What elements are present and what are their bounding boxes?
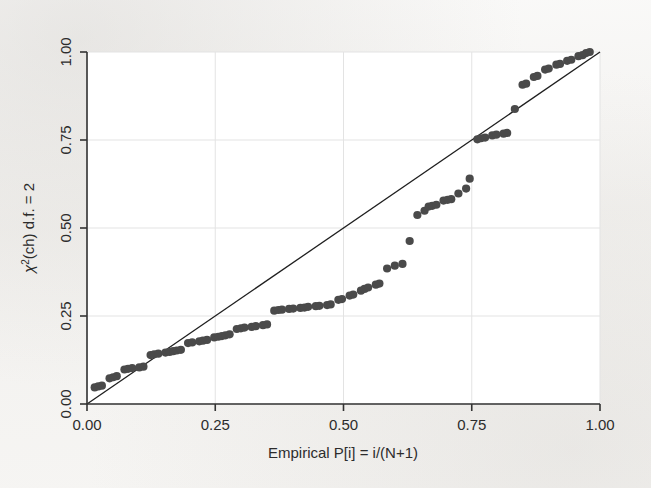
data-point bbox=[586, 48, 594, 56]
y-tick-label: 0.25 bbox=[57, 301, 74, 330]
data-point bbox=[240, 324, 248, 332]
data-point bbox=[338, 295, 346, 303]
data-point bbox=[327, 300, 335, 308]
data-point bbox=[503, 129, 511, 137]
data-point bbox=[289, 305, 297, 313]
data-point bbox=[391, 262, 399, 270]
qq-plot-chart: 0.000.250.500.751.00 0.000.250.500.751.0… bbox=[0, 0, 651, 488]
data-point bbox=[304, 303, 312, 311]
data-point bbox=[315, 302, 323, 310]
data-point bbox=[139, 363, 147, 371]
y-tick-label: 0.50 bbox=[57, 213, 74, 242]
data-point bbox=[375, 280, 383, 288]
data-point bbox=[466, 175, 474, 183]
data-point bbox=[556, 60, 564, 68]
y-axis-title-group: χ2(ch) d.f. = 2 bbox=[20, 183, 37, 275]
data-point bbox=[462, 184, 470, 192]
y-tick-label: 0.00 bbox=[57, 389, 74, 418]
data-point bbox=[188, 338, 196, 346]
data-point bbox=[383, 264, 391, 272]
data-point bbox=[98, 382, 106, 390]
data-point bbox=[413, 211, 421, 219]
data-point bbox=[364, 283, 372, 291]
data-point bbox=[398, 260, 406, 268]
x-tick-label: 0.00 bbox=[72, 416, 101, 433]
data-point bbox=[567, 56, 575, 64]
y-axis-title: χ2(ch) d.f. = 2 bbox=[20, 183, 37, 275]
y-axis-title-rest: (ch) d.f. = 2 bbox=[20, 183, 37, 259]
x-axis-title: Empirical P[i] = i/(N+1) bbox=[268, 444, 418, 461]
data-point bbox=[263, 320, 271, 328]
data-point bbox=[203, 336, 211, 344]
data-point bbox=[226, 330, 234, 338]
data-point bbox=[349, 290, 357, 298]
y-tick-label: 0.75 bbox=[57, 125, 74, 154]
data-point bbox=[522, 80, 530, 88]
data-point bbox=[481, 133, 489, 141]
y-axis-ticks: 0.000.250.500.751.00 bbox=[57, 37, 87, 418]
data-point bbox=[432, 201, 440, 209]
x-tick-label: 0.25 bbox=[201, 416, 230, 433]
data-point bbox=[252, 322, 260, 330]
data-point bbox=[447, 195, 455, 203]
data-point bbox=[545, 64, 553, 72]
x-tick-label: 0.75 bbox=[457, 416, 486, 433]
x-axis-ticks: 0.000.250.500.751.00 bbox=[72, 404, 614, 433]
x-tick-label: 1.00 bbox=[585, 416, 614, 433]
data-point bbox=[154, 350, 162, 358]
data-point bbox=[511, 105, 519, 113]
data-point bbox=[454, 189, 462, 197]
data-point bbox=[406, 237, 414, 245]
figure-canvas: 0.000.250.500.751.00 0.000.250.500.751.0… bbox=[0, 0, 651, 488]
data-point bbox=[533, 72, 541, 80]
data-point bbox=[278, 306, 286, 314]
data-point bbox=[128, 364, 136, 372]
data-point bbox=[113, 372, 121, 380]
x-tick-label: 0.50 bbox=[329, 416, 358, 433]
y-tick-label: 1.00 bbox=[57, 37, 74, 66]
data-point bbox=[492, 131, 500, 139]
data-point bbox=[177, 346, 185, 354]
